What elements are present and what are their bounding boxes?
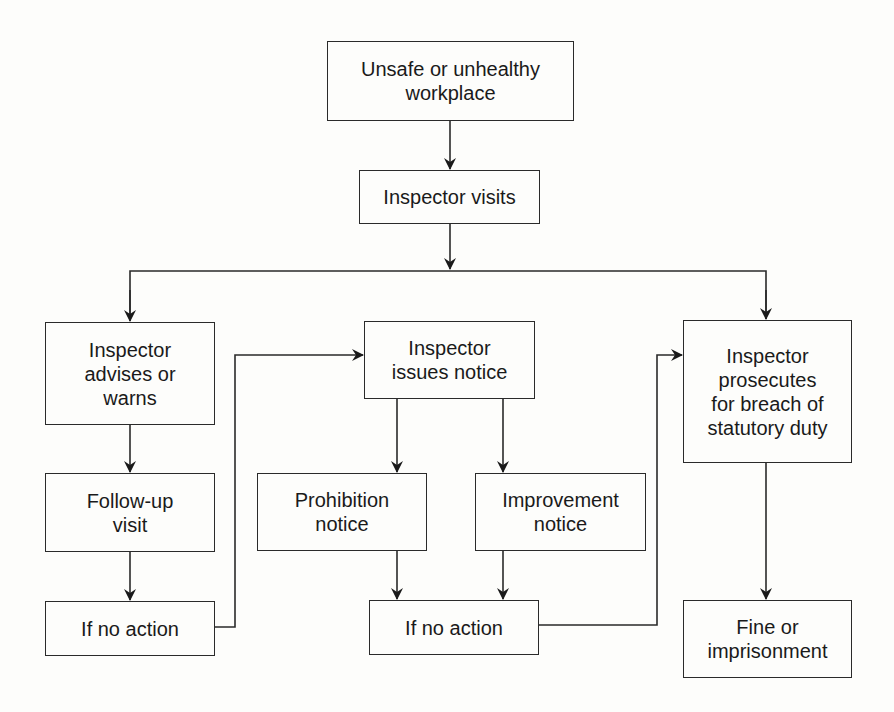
node-inspector-advises: Inspector advises or warns — [45, 322, 215, 425]
node-inspector-visits: Inspector visits — [359, 170, 540, 224]
node-prohibition-notice: Prohibition notice — [257, 473, 427, 551]
node-label: Unsafe or unhealthy workplace — [361, 57, 540, 105]
node-label: If no action — [81, 617, 179, 641]
node-follow-up-visit: Follow-up visit — [45, 473, 215, 552]
branch-horizontal-line — [130, 271, 766, 320]
node-label: Prohibition notice — [295, 488, 390, 536]
node-label: Inspector prosecutes for breach of statu… — [707, 344, 827, 440]
node-if-no-action-left: If no action — [45, 601, 215, 656]
node-improvement-notice: Improvement notice — [475, 473, 646, 551]
node-label: Improvement notice — [502, 488, 619, 536]
node-label: Inspector visits — [383, 185, 515, 209]
node-inspector-prosecutes: Inspector prosecutes for breach of statu… — [683, 320, 852, 463]
node-if-no-action-middle: If no action — [369, 600, 539, 655]
node-label: Inspector advises or warns — [84, 338, 175, 410]
node-label: Fine or imprisonment — [707, 615, 827, 663]
node-label: If no action — [405, 616, 503, 640]
node-fine-or-imprisonment: Fine or imprisonment — [683, 600, 852, 678]
node-label: Follow-up visit — [87, 489, 174, 537]
node-unsafe-workplace: Unsafe or unhealthy workplace — [327, 41, 574, 121]
node-inspector-issues-notice: Inspector issues notice — [364, 321, 535, 399]
node-label: Inspector issues notice — [392, 336, 508, 384]
